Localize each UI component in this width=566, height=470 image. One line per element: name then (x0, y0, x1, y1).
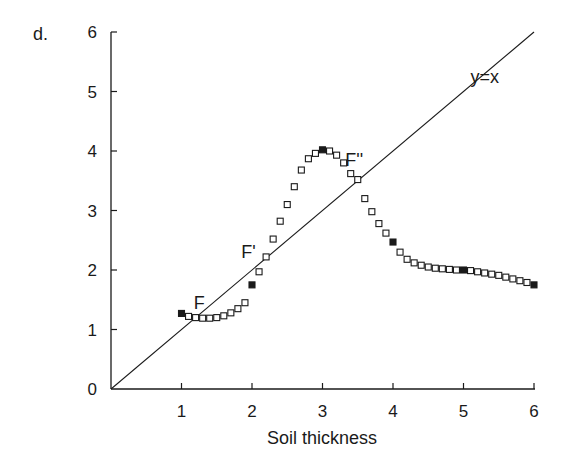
open-square-marker (214, 315, 220, 321)
data-points (179, 147, 538, 321)
x-tick-label: 4 (388, 402, 397, 421)
open-square-marker (369, 209, 375, 215)
y-tick-label: 6 (88, 23, 97, 42)
open-square-marker (221, 313, 227, 319)
open-square-marker (291, 184, 297, 190)
y-tick-label: 3 (88, 202, 97, 221)
open-square-marker (242, 300, 248, 306)
point-annotation: F'' (345, 150, 363, 170)
y-tick-label: 1 (88, 321, 97, 340)
open-square-marker (446, 266, 452, 272)
open-square-marker (383, 230, 389, 236)
filled-square-marker (390, 239, 396, 245)
open-square-marker (425, 264, 431, 270)
open-square-marker (397, 249, 403, 255)
open-square-marker (200, 315, 206, 321)
open-square-marker (284, 202, 290, 208)
open-square-marker (418, 262, 424, 268)
y-tick-label: 5 (88, 83, 97, 102)
open-square-marker (263, 254, 269, 260)
x-tick-label: 6 (529, 402, 538, 421)
open-square-marker (475, 269, 481, 275)
open-square-marker (510, 276, 516, 282)
open-square-marker (305, 156, 311, 162)
open-square-marker (411, 260, 417, 266)
open-square-marker (334, 152, 340, 158)
open-square-marker (277, 218, 283, 224)
x-axis-title: Soil thickness (267, 428, 377, 448)
open-square-marker (193, 315, 199, 321)
open-square-marker (404, 256, 410, 262)
open-square-marker (503, 274, 509, 280)
x-tick-label: 2 (247, 402, 256, 421)
open-square-marker (496, 272, 502, 278)
open-square-marker (355, 177, 361, 183)
open-square-marker (432, 265, 438, 271)
filled-square-marker (461, 267, 467, 273)
open-square-marker (489, 271, 495, 277)
point-annotation: F (194, 293, 205, 313)
open-square-marker (468, 268, 474, 274)
y-equals-x-label: y=x (470, 67, 499, 87)
panel-label: d. (33, 24, 48, 44)
y-tick-label: 2 (88, 261, 97, 280)
open-square-marker (235, 306, 241, 312)
open-square-marker (517, 278, 523, 284)
x-tick-label: 3 (318, 402, 327, 421)
x-tick-label: 5 (459, 402, 468, 421)
open-square-marker (524, 279, 530, 285)
open-square-marker (256, 269, 262, 275)
reference-line: y=x (111, 32, 534, 389)
filled-square-marker (179, 310, 185, 316)
open-square-marker (376, 221, 382, 227)
annotations: FF'F'' (194, 150, 364, 313)
point-annotation: F' (241, 242, 255, 262)
open-square-marker (453, 267, 459, 273)
open-square-marker (228, 310, 234, 316)
open-square-marker (298, 167, 304, 173)
y-tick-label: 0 (88, 380, 97, 399)
filled-square-marker (249, 282, 255, 288)
open-square-marker (207, 315, 213, 321)
open-square-marker (348, 171, 354, 177)
open-square-marker (439, 266, 445, 272)
filled-square-marker (531, 282, 537, 288)
y-tick-label: 4 (88, 142, 97, 161)
open-square-marker (186, 313, 192, 319)
x-tick-label: 1 (177, 402, 186, 421)
open-square-marker (270, 236, 276, 242)
open-square-marker (312, 150, 318, 156)
chart: d. 1234560123456 y=x FF'F'' Soil thickne… (0, 0, 566, 470)
open-square-marker (327, 148, 333, 154)
open-square-marker (482, 270, 488, 276)
filled-square-marker (320, 147, 326, 153)
open-square-marker (362, 196, 368, 202)
